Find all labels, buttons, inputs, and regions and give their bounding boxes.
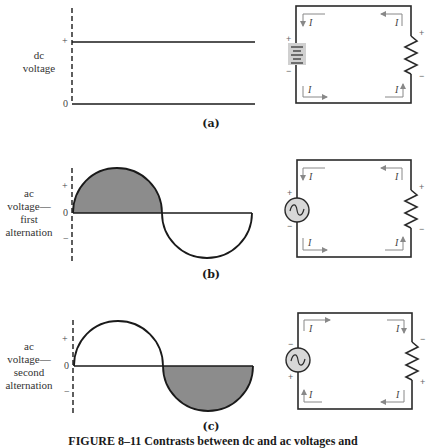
figure-caption: FIGURE 8–11 Contrasts between dc and ac … — [0, 434, 426, 448]
figure-canvas: + − + − I I I I + − + − I — [0, 0, 426, 448]
svg-text:I: I — [395, 323, 400, 334]
battery-icon — [288, 43, 306, 65]
panel-a-waveform — [72, 8, 255, 104]
panel-b-plus-mark: + — [62, 180, 68, 191]
panel-b-waveform — [72, 168, 252, 262]
panel-c-plus-mark: + — [62, 333, 68, 344]
shaded-positive-half — [73, 168, 162, 213]
svg-text:−: − — [419, 224, 424, 234]
panel-c-minus-mark: − — [64, 386, 70, 397]
panel-a-plus-mark: + — [62, 35, 68, 46]
positive-half-curve — [74, 321, 163, 366]
current-arrow-bottom-right — [385, 84, 403, 97]
panel-a-label: (a) — [191, 117, 231, 130]
panel-a-zero-mark: 0 — [63, 98, 68, 109]
source-plus-label: + — [286, 34, 291, 44]
current-arrow-top-left — [303, 14, 325, 26]
svg-text:I: I — [394, 84, 399, 95]
panel-c-label: (c) — [191, 420, 231, 433]
svg-text:I: I — [394, 17, 399, 28]
label-line: alternation — [0, 226, 58, 239]
svg-text:−: − — [420, 334, 425, 344]
svg-text:−: − — [287, 221, 292, 231]
svg-text:I: I — [394, 171, 399, 182]
panel-b-zero-mark: 0 — [63, 207, 68, 218]
current-arrow-bottom-left — [303, 238, 327, 250]
svg-text:+: + — [287, 188, 292, 198]
label-line: first — [0, 213, 58, 226]
current-arrow-top-left — [303, 168, 325, 180]
panel-c-zero-mark: 0 — [64, 360, 69, 371]
shaded-negative-half — [163, 366, 253, 411]
panel-a-side-label: dc voltage — [18, 49, 60, 75]
load-plus-label: + — [419, 28, 424, 38]
current-arrow-bottom-right — [381, 390, 404, 402]
svg-text:I: I — [394, 237, 399, 248]
load-minus-label: − — [419, 71, 424, 81]
label-line: ac — [0, 187, 58, 200]
svg-text:I: I — [308, 323, 313, 334]
svg-text:I: I — [308, 17, 313, 28]
circuit-loop — [297, 160, 411, 257]
panel-b-circuit: + − + − I I I I — [285, 160, 424, 257]
panel-c-circuit: − + − + I I I I — [286, 313, 425, 409]
label-line: voltage— — [0, 200, 58, 213]
current-arrow-top-left — [304, 320, 330, 331]
panel-c-waveform — [73, 320, 253, 414]
svg-text:I: I — [307, 84, 312, 95]
panel-c-side-label: ac voltage— second alternation — [0, 340, 58, 392]
svg-text:+: + — [288, 372, 293, 382]
panel-b-minus-mark: − — [63, 233, 69, 244]
svg-text:I: I — [307, 237, 312, 248]
svg-text:−: − — [288, 339, 293, 349]
circuit-loop — [298, 313, 412, 409]
label-line: dc — [18, 49, 60, 62]
circuit-loop — [296, 6, 411, 103]
svg-text:I: I — [395, 389, 400, 400]
panel-b-side-label: ac voltage— first alternation — [0, 187, 58, 239]
current-arrow-bottom-left — [303, 86, 327, 97]
svg-text:I: I — [308, 389, 313, 400]
panel-b-label: (b) — [191, 268, 231, 281]
source-minus-label: − — [286, 66, 291, 76]
label-line: second — [0, 366, 58, 379]
current-arrow-bottom-right — [385, 237, 403, 250]
panel-a-circuit: + − + − I I I I — [286, 6, 424, 103]
label-line: voltage— — [0, 353, 58, 366]
svg-text:I: I — [308, 171, 313, 182]
label-line: voltage — [18, 62, 60, 75]
label-line: alternation — [0, 379, 58, 392]
negative-half-curve — [162, 213, 252, 258]
label-line: ac — [0, 340, 58, 353]
svg-text:+: + — [420, 377, 425, 387]
svg-text:+: + — [419, 182, 424, 192]
